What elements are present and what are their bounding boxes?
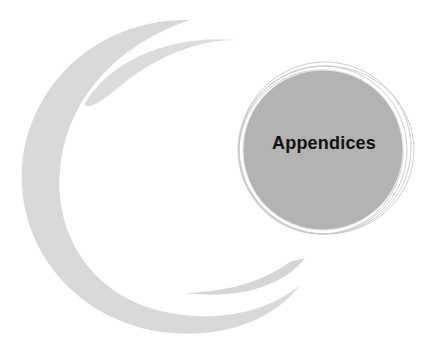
page-title: Appendices	[249, 133, 399, 154]
lower-swoosh-icon	[185, 258, 305, 295]
decorative-background	[0, 0, 440, 355]
